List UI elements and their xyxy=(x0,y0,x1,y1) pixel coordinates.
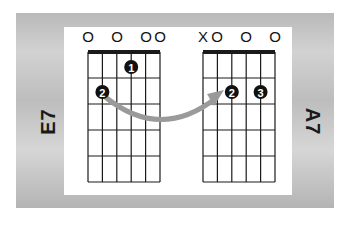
a7-finger-3-dot: 3 xyxy=(254,85,268,99)
svg-text:2: 2 xyxy=(229,87,235,99)
a7-fretboard xyxy=(203,52,275,182)
e7-finger-1-dot: 1 xyxy=(124,60,138,74)
transition-arrow-icon xyxy=(104,90,224,120)
svg-text:2: 2 xyxy=(99,87,105,99)
chord-name-e7: E7 xyxy=(37,102,60,142)
svg-text:1: 1 xyxy=(128,62,134,74)
svg-text:3: 3 xyxy=(258,87,264,99)
chord-name-a7: A7 xyxy=(301,102,324,142)
e7-finger-2-dot: 2 xyxy=(95,85,109,99)
a7-finger-2-dot: 2 xyxy=(225,85,239,99)
